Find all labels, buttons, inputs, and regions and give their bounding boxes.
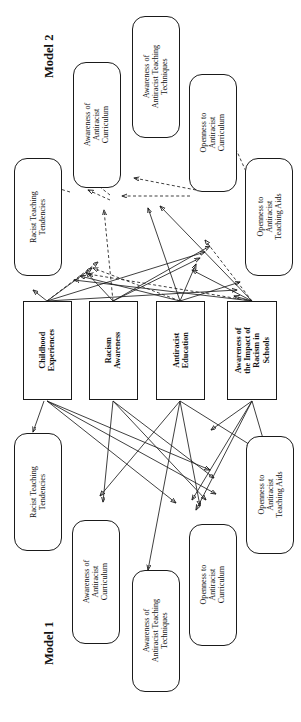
node-childhood-experiences[interactable]: ChildhoodExperiences bbox=[23, 301, 72, 400]
node-m1-openness-antiracist-curriculum[interactable]: Openness toAntiracistCurriculum bbox=[189, 524, 237, 646]
node-label: Openness toAntiracistTeaching Aids bbox=[255, 194, 282, 240]
node-label: ChildhoodExperiences bbox=[38, 329, 56, 371]
model-2-title: Model 2 bbox=[42, 35, 57, 78]
node-m2-awareness-antiracist-teaching-techniques[interactable]: Awareness ofAntiracist TeachingTechnique… bbox=[132, 16, 180, 138]
node-label: Awareness ofAntiracist TeachingTechnique… bbox=[142, 599, 169, 662]
node-label: Racist TeachingTendencies bbox=[29, 191, 47, 243]
node-label: Awareness ofAntiracistCurriculum bbox=[82, 560, 109, 604]
node-m2-awareness-antiracist-curriculum[interactable]: Awareness ofAntiracistCurriculum bbox=[73, 62, 121, 188]
node-label: Openness toAntiracistCurriculum bbox=[199, 113, 226, 153]
node-antiracist-education[interactable]: AntiracistEducation bbox=[156, 301, 205, 400]
node-m2-openness-antiracist-teaching-aids[interactable]: Openness toAntiracistTeaching Aids bbox=[245, 158, 293, 276]
node-m1-openness-antiracist-teaching-aids[interactable]: Openness toAntiracistTeaching Aids bbox=[246, 436, 294, 554]
node-m2-openness-antiracist-curriculum[interactable]: Openness toAntiracistCurriculum bbox=[189, 74, 237, 192]
node-label: RacismAwareness bbox=[104, 332, 122, 369]
model2-edges bbox=[33, 118, 276, 301]
node-awareness-impact-racism-schools[interactable]: Awareness ofthe Impact ofRacism inSchool… bbox=[227, 301, 277, 400]
node-m2-racist-teaching-tendencies[interactable]: Racist TeachingTendencies bbox=[14, 158, 62, 276]
node-label: Racist TeachingTendencies bbox=[29, 466, 47, 518]
node-racism-awareness[interactable]: RacismAwareness bbox=[89, 301, 138, 400]
node-label: Awareness ofAntiracistCurriculum bbox=[83, 103, 110, 147]
node-label: Awareness ofthe Impact ofRacism inSchool… bbox=[234, 327, 271, 374]
node-label: AntiracistEducation bbox=[171, 333, 189, 369]
node-label: Awareness ofAntiracist TeachingTechnique… bbox=[142, 45, 169, 108]
node-m1-awareness-antiracist-curriculum[interactable]: Awareness ofAntiracistCurriculum bbox=[72, 520, 120, 644]
node-m1-racist-teaching-tendencies[interactable]: Racist TeachingTendencies bbox=[14, 433, 62, 551]
node-label: Openness toAntiracistCurriculum bbox=[199, 565, 226, 605]
model-1-title: Model 1 bbox=[42, 622, 57, 665]
node-label: Openness toAntiracistTeaching Aids bbox=[256, 472, 283, 518]
diagram-canvas: Model 2 Racist TeachingTendencies Awaren… bbox=[0, 0, 301, 722]
node-m1-awareness-antiracist-teaching-techniques[interactable]: Awareness ofAntiracist TeachingTechnique… bbox=[132, 570, 180, 692]
